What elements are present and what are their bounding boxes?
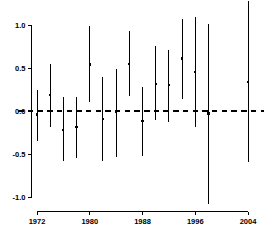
x-tick-label: 1972 (29, 217, 46, 226)
data-point-marker (128, 63, 130, 65)
y-tick-label: 1.0 (15, 21, 25, 30)
data-point-marker (102, 118, 104, 120)
x-tick-label: 2004 (240, 217, 258, 226)
errorbar-chart: 1.00.50.0-0.5-1.019721980198819962004 (0, 0, 268, 250)
data-point-marker (75, 126, 77, 128)
x-tick-label: 1996 (187, 217, 204, 226)
data-point-marker (247, 81, 249, 83)
data-point-marker (62, 129, 64, 131)
data-point-marker (141, 120, 143, 122)
data-point-marker (89, 63, 91, 65)
y-tick-label: -1.0 (13, 193, 26, 202)
data-point-marker (194, 71, 196, 73)
y-tick-label: -0.5 (13, 150, 26, 159)
chart-container: 1.00.50.0-0.5-1.019721980198819962004 (0, 0, 268, 250)
chart-plot-area: 1.00.50.0-0.5-1.019721980198819962004 (0, 0, 268, 250)
data-point-marker (36, 113, 38, 115)
data-point-marker (181, 57, 183, 59)
x-tick-label: 1988 (134, 217, 151, 226)
x-tick-label: 1980 (81, 217, 98, 226)
data-point-marker (168, 84, 170, 86)
y-tick-label: 0.5 (15, 64, 25, 73)
data-point-marker (115, 111, 117, 113)
data-point-marker (49, 94, 51, 96)
data-point-marker (155, 83, 157, 85)
data-point-marker (207, 112, 209, 114)
